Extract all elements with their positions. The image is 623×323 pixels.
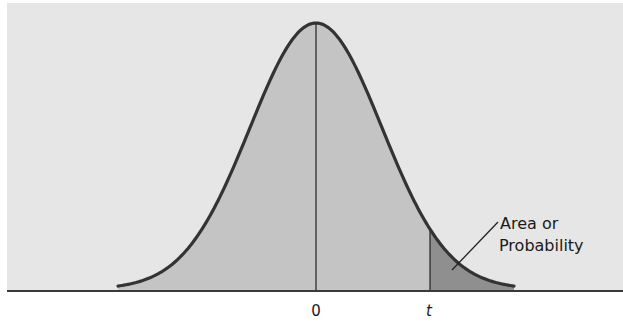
annotation-line1: Area or: [500, 214, 559, 233]
t-distribution-diagram: Area or Probability 0 t: [0, 0, 623, 323]
tick-label-zero: 0: [311, 302, 321, 320]
annotation-line2: Probability: [499, 236, 584, 255]
tick-label-t: t: [426, 302, 433, 320]
